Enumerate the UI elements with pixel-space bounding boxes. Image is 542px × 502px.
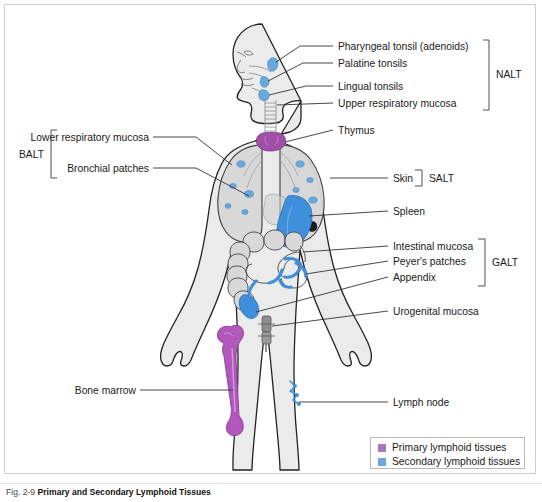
- anatomy-diagram: Pharyngeal tonsil (adenoids) Palatine to…: [0, 0, 542, 502]
- label-thymus: Thymus: [338, 125, 375, 136]
- group-label-balt: BALT: [19, 149, 45, 160]
- label-intestinal-mucosa: Intestinal mucosa: [393, 241, 473, 252]
- group-label-salt: SALT: [429, 173, 455, 184]
- label-lower-respiratory-mucosa: Lower respiratory mucosa: [31, 132, 150, 143]
- thymus-organ: [256, 132, 285, 151]
- legend-swatch-secondary: [378, 458, 386, 466]
- group-label-galt: GALT: [492, 257, 519, 268]
- label-palatine-tonsils: Palatine tonsils: [338, 58, 407, 69]
- figure-root: Pharyngeal tonsil (adenoids) Palatine to…: [0, 0, 542, 502]
- label-pharyngeal-tonsil: Pharyngeal tonsil (adenoids): [338, 41, 469, 52]
- legend-label-primary: Primary lymphoid tissues: [392, 442, 506, 453]
- figure-number: Fig. 2-9: [6, 487, 35, 497]
- caption-divider: [0, 483, 542, 484]
- salt-bracket-group: SALT: [415, 170, 455, 186]
- group-label-nalt: NALT: [496, 69, 522, 80]
- nalt-bracket-group: NALT: [483, 40, 522, 110]
- legend-item-secondary: Secondary lymphoid tissues: [378, 455, 524, 468]
- legend-item-primary: Primary lymphoid tissues: [378, 441, 524, 454]
- label-spleen: Spleen: [393, 206, 425, 217]
- legend: Primary lymphoid tissues Secondary lymph…: [370, 437, 525, 469]
- label-bronchial-patches: Bronchial patches: [67, 163, 149, 174]
- label-urogenital-mucosa: Urogenital mucosa: [393, 306, 479, 317]
- label-bone-marrow: Bone marrow: [75, 385, 137, 396]
- legend-swatch-primary: [378, 444, 386, 452]
- label-lingual-tonsils: Lingual tonsils: [338, 81, 403, 92]
- lingual-tonsil-marker: [259, 90, 270, 101]
- label-appendix: Appendix: [393, 272, 437, 283]
- label-lymph-node: Lymph node: [393, 397, 450, 408]
- label-skin: Skin: [393, 173, 413, 184]
- palatine-tonsil-marker: [260, 77, 269, 88]
- pharyngeal-tonsil-marker: [268, 58, 278, 71]
- figure-title: Primary and Secondary Lymphoid Tissues: [38, 487, 211, 497]
- figure-caption: Fig. 2-9 Primary and Secondary Lymphoid …: [6, 487, 536, 497]
- galt-bracket-group: GALT: [478, 239, 519, 286]
- legend-label-secondary: Secondary lymphoid tissues: [392, 456, 520, 467]
- label-upper-respiratory-mucosa: Upper respiratory mucosa: [338, 98, 457, 109]
- left-label-texts: Lower respiratory mucosa Bronchial patch…: [31, 132, 150, 396]
- label-peyers-patches: Peyer's patches: [393, 256, 466, 267]
